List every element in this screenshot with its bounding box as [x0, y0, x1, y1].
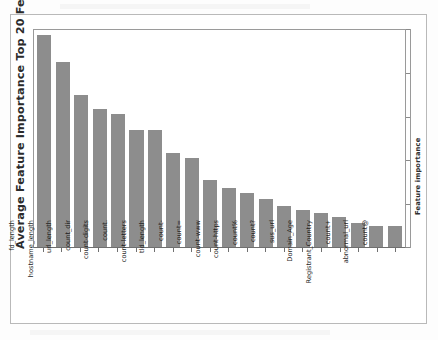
right-axis-line [410, 29, 411, 248]
x-axis-tick-label: count- [157, 220, 165, 290]
x-tick-mark [302, 248, 303, 252]
bar-slot [53, 30, 71, 247]
bar [37, 35, 51, 247]
x-tick-mark [61, 248, 62, 252]
x-tick-mark [358, 248, 359, 252]
bar-slot [183, 30, 201, 247]
right-axis-tick-mark [406, 247, 410, 248]
x-axis-tick-label: tld_length [138, 220, 146, 290]
x-tick-mark [173, 248, 174, 252]
x-tick-mark [98, 248, 99, 252]
x-axis-tick-labels: fd_lengthhostname_lengthurl_lengthcount_… [33, 253, 406, 319]
bar [388, 226, 402, 247]
scan-artifact [60, 4, 310, 9]
x-axis-tick-label: fd_length [8, 220, 16, 290]
x-tick-mark [228, 248, 229, 252]
x-axis-tick-label: Domain_Age [286, 220, 294, 290]
x-axis-tick-label: count@ [361, 220, 369, 290]
x-tick-mark [136, 248, 137, 252]
x-label-slot: abnormal_url [368, 253, 387, 319]
bar-series [34, 30, 405, 247]
right-axis-title: Feature importance [414, 105, 426, 215]
x-axis-tick-label: count+ [324, 220, 332, 290]
x-axis-tick-label: hostname_length [27, 220, 35, 290]
bar-slot [146, 30, 164, 247]
right-axis-tick-mark [406, 117, 410, 118]
x-tick-mark [154, 248, 155, 252]
bar-slot [275, 30, 293, 247]
x-axis-tick-label: count_dir [64, 220, 72, 290]
bar-slot [367, 30, 385, 247]
bar-slot [164, 30, 182, 247]
plot-area [33, 29, 406, 248]
bar-slot [220, 30, 238, 247]
bar-slot [127, 30, 145, 247]
x-axis-tick-label: url_length [45, 220, 53, 290]
x-tick-mark [247, 248, 248, 252]
right-axis-tick-mark [406, 73, 410, 74]
x-axis-tick-label: abnormal_url [342, 220, 350, 290]
right-axis-tick-mark [406, 160, 410, 161]
x-tick-mark [340, 248, 341, 252]
x-tick-mark [321, 248, 322, 252]
x-tick-mark [265, 248, 266, 252]
x-tick-mark [80, 248, 81, 252]
x-axis-tick-label: count. [101, 220, 109, 290]
x-tick-mark [191, 248, 192, 252]
scan-artifact [30, 330, 330, 335]
x-tick-mark [117, 248, 118, 252]
bar-slot [256, 30, 274, 247]
x-tick-mark [43, 248, 44, 252]
figure-canvas: Average Feature Importance Top 20 Featur… [0, 0, 438, 340]
x-axis-tick-label: count-digits [82, 220, 90, 290]
right-axis-tick-mark [406, 204, 410, 205]
bar-slot [238, 30, 256, 247]
x-axis-tick-label: count= [175, 220, 183, 290]
bar-slot [90, 30, 108, 247]
y-axis-title: Average Feature Importance Top 20 Featur… [14, 29, 32, 249]
right-axis-tick-mark [406, 29, 410, 30]
x-tick-mark [284, 248, 285, 252]
x-tick-mark [395, 248, 396, 252]
bar-slot [386, 30, 404, 247]
x-tick-mark [377, 248, 378, 252]
x-axis-tick-label: count% [231, 220, 239, 290]
bar-slot [72, 30, 90, 247]
x-tick-slot [386, 248, 405, 252]
bar-slot [201, 30, 219, 247]
bar-slot [35, 30, 53, 247]
x-axis-tick-label: count-letters [120, 220, 128, 290]
bar [369, 226, 383, 247]
x-tick-slot [368, 248, 387, 252]
x-axis-tick-label: count-www [194, 220, 202, 290]
bar-slot [312, 30, 330, 247]
bar-slot [330, 30, 348, 247]
bar-slot [109, 30, 127, 247]
x-axis-tick-label: sus_url [268, 220, 276, 290]
x-axis-tick-label: count? [249, 220, 257, 290]
bar-slot [293, 30, 311, 247]
x-axis-tick-label: count-https [212, 220, 220, 290]
bar-slot [349, 30, 367, 247]
x-axis-tick-label: Registrant_Country [305, 220, 313, 290]
x-label-slot: count@ [386, 253, 405, 319]
x-tick-mark [210, 248, 211, 252]
